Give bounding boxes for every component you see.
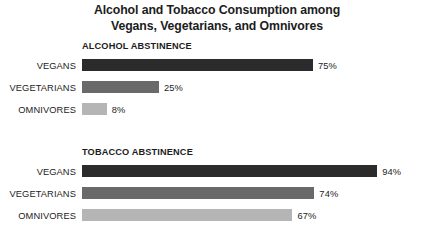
bar-row: VEGANS 94% <box>0 164 434 186</box>
bar-category-label: VEGANS <box>0 61 76 71</box>
bar-value-label: 75% <box>318 61 337 71</box>
page-title-line-2: Vegans, Vegetarians, and Omnivores <box>0 19 434 35</box>
bar-value-label: 25% <box>164 83 183 93</box>
bar-fill <box>82 165 377 177</box>
bar-category-label: OMNIVORES <box>0 105 76 115</box>
bar-value-label: 94% <box>382 167 401 177</box>
bar-chart-figure: Alcohol and Tobacco Consumption among Ve… <box>0 0 434 241</box>
bar-category-label: VEGETARIANS <box>0 83 76 93</box>
bar-fill <box>82 103 107 115</box>
bar-row: VEGETARIANS 74% <box>0 186 434 208</box>
bar-fill <box>82 59 313 71</box>
bar-value-label: 67% <box>297 211 316 221</box>
bar-track: 94% <box>82 165 434 177</box>
bar-row: VEGETARIANS 25% <box>0 80 434 102</box>
bar-track: 74% <box>82 187 434 199</box>
bar-track: 8% <box>82 103 434 115</box>
bar-track: 75% <box>82 59 434 71</box>
bar-row: OMNIVORES 67% <box>0 208 434 230</box>
bar-value-label: 8% <box>112 105 126 115</box>
bar-category-label: OMNIVORES <box>0 211 76 221</box>
bar-category-label: VEGANS <box>0 167 76 177</box>
bar-category-label: VEGETARIANS <box>0 189 76 199</box>
bar-row: OMNIVORES 8% <box>0 102 434 124</box>
panel-header-alcohol: ALCOHOL ABSTINENCE <box>82 41 192 51</box>
bar-value-label: 74% <box>319 189 338 199</box>
page-title: Alcohol and Tobacco Consumption among Ve… <box>0 3 434 34</box>
bar-fill <box>82 81 159 93</box>
bar-track: 67% <box>82 209 434 221</box>
bar-fill <box>82 187 314 199</box>
bar-group-tobacco: VEGANS 94% VEGETARIANS 74% OMNIVORES 67% <box>0 164 434 230</box>
bar-fill <box>82 209 292 221</box>
bar-track: 25% <box>82 81 434 93</box>
page-title-line-1: Alcohol and Tobacco Consumption among <box>0 3 434 19</box>
bar-row: VEGANS 75% <box>0 58 434 80</box>
bar-group-alcohol: VEGANS 75% VEGETARIANS 25% OMNIVORES 8% <box>0 58 434 124</box>
panel-header-tobacco: TOBACCO ABSTINENCE <box>82 147 193 157</box>
